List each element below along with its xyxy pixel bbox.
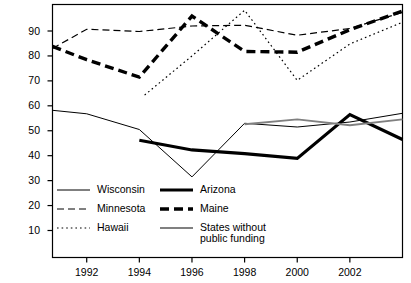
x-axis-tick-label: 1992 (67, 267, 107, 277)
chart-container: 1020304050607080901992199419961998200020… (0, 0, 411, 283)
y-axis-tick-label: 30 (10, 175, 40, 185)
legend-label: Minnesota (97, 203, 145, 214)
y-axis-tick-label: 70 (10, 75, 40, 85)
legend-label: Hawaii (97, 222, 129, 233)
series-line-wisconsin (53, 110, 403, 177)
x-axis-tick-label: 1994 (119, 267, 159, 277)
series-line-maine (53, 11, 403, 77)
y-axis-tick-label: 60 (10, 100, 40, 110)
x-axis-tick-label: 1996 (172, 267, 212, 277)
series-line-hawaii (145, 10, 403, 95)
y-axis-tick-label: 50 (10, 125, 40, 135)
y-axis-tick-label: 10 (10, 225, 40, 235)
legend-label: Wisconsin (97, 184, 145, 195)
legend-label: Arizona (200, 184, 236, 195)
x-axis-tick-label: 2002 (330, 267, 370, 277)
x-axis-tick-label: 2000 (277, 267, 317, 277)
y-axis-tick-label: 20 (10, 200, 40, 210)
legend-label-line2: public funding (200, 233, 265, 244)
series-line-minnesota (53, 12, 403, 48)
y-axis-tick-label: 80 (10, 50, 40, 60)
y-axis-tick-label: 90 (10, 26, 40, 36)
plot-frame (53, 5, 403, 258)
x-axis-tick-label: 1998 (225, 267, 265, 277)
y-axis-tick-label: 40 (10, 150, 40, 160)
legend-label: Maine (200, 203, 229, 214)
